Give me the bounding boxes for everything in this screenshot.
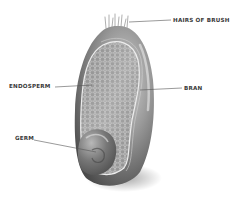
label-bran: BRAN bbox=[184, 86, 202, 92]
label-endosperm: ENDOSPERM bbox=[9, 84, 51, 90]
wheat-kernel-diagram bbox=[0, 0, 237, 202]
label-hairs-of-brush: HAIRS OF BRUSH bbox=[173, 18, 230, 24]
label-germ: GERM bbox=[15, 136, 34, 142]
brush-hairs-icon bbox=[105, 14, 128, 28]
leader-hairs bbox=[129, 20, 171, 22]
